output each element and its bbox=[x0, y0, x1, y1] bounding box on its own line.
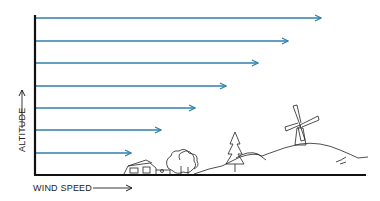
windmill-icon bbox=[285, 105, 319, 145]
wind-arrows bbox=[36, 18, 321, 153]
altitude-axis-label: ALTITUDE bbox=[17, 108, 27, 152]
evergreen-tree-icon bbox=[226, 132, 244, 172]
houses-icon bbox=[124, 160, 170, 174]
trees-icon bbox=[167, 149, 198, 174]
wind-profile-diagram bbox=[0, 0, 380, 201]
hill-icon bbox=[194, 143, 368, 174]
landscape-illustration bbox=[124, 105, 368, 174]
wind-speed-axis-label: WIND SPEED bbox=[33, 183, 92, 193]
